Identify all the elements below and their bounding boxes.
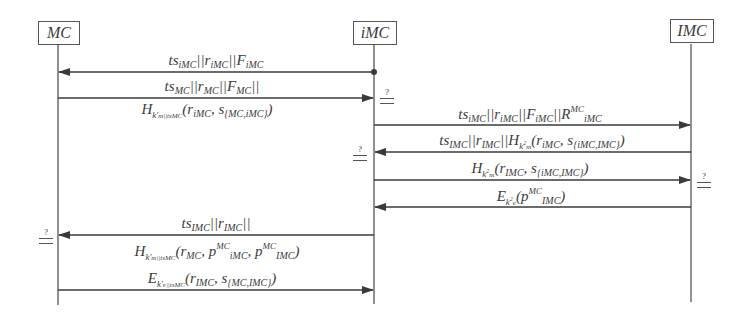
- message-5-label: Hk2m(rIMC, s{iMC,IMC}): [471, 161, 588, 179]
- message-1-start-dot: [371, 69, 377, 75]
- participant-imc-middle: iMC: [353, 21, 397, 45]
- question-mark: ?: [702, 171, 706, 181]
- participant-imc-right: IMC: [670, 19, 714, 43]
- message-3-label: tsiMC||riMC||FiMC||RMCiMC: [458, 105, 602, 124]
- message-4-label: tsIMC||rIMC||Hk2m(riMC, s{iMC,IMC}): [439, 133, 625, 151]
- message-2-label-bottom: Hk'm||tsMC(riMC, s{MC,iMC}): [141, 102, 272, 120]
- verify-mark-imc-right: ?: [696, 172, 712, 188]
- participant-mc: MC: [38, 21, 80, 45]
- verify-mark-imc-2: ?: [352, 145, 368, 161]
- equals-icon: [353, 155, 367, 161]
- equals-icon: [697, 182, 711, 188]
- message-2-label-top: tsMC||rMC||FMC||: [165, 79, 260, 96]
- equals-icon: [380, 98, 394, 104]
- message-7-label-bottom: Hk'm||tsMC(rMC, pMCiMC, pMCIMC): [135, 242, 300, 262]
- message-6-label: Ek2e(pMCIMC): [497, 187, 566, 207]
- verify-mark-mc: ?: [38, 228, 54, 244]
- equals-icon: [39, 238, 53, 244]
- verify-mark-imc-1: ?: [379, 88, 395, 104]
- question-mark: ?: [358, 144, 362, 154]
- message-8-label: Ek'e||tsMC(rIMC, s{MC,IMC}): [148, 271, 277, 289]
- message-7-label-top: tsIMC||rIMC||: [181, 216, 250, 233]
- sequence-diagram-canvas: [0, 0, 746, 324]
- message-1-label: tsiMC||riMC||FiMC: [169, 53, 264, 70]
- question-mark: ?: [385, 87, 389, 97]
- question-mark: ?: [44, 227, 48, 237]
